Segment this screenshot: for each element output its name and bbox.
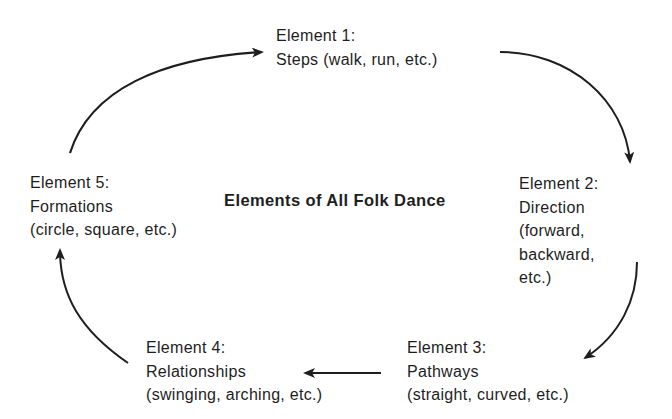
- element-5-node: Element 5: Formations (circle, square, e…: [30, 171, 177, 242]
- element-3-node: Element 3: Pathways (straight, curved, e…: [407, 336, 569, 407]
- folk-dance-cycle-diagram: Elements of All Folk Dance Element 1: St…: [0, 0, 672, 419]
- element-4-name: Relationships: [146, 360, 322, 384]
- element-2-name: Direction: [519, 196, 598, 220]
- element-3-examples: (straight, curved, etc.): [407, 383, 569, 407]
- element-2-example-2: backward,: [519, 243, 598, 267]
- element-4-node: Element 4: Relationships (swinging, arch…: [146, 336, 322, 407]
- arrow-1-to-2: [500, 52, 630, 162]
- element-1-node: Element 1: Steps (walk, run, etc.): [276, 24, 438, 71]
- arrow-4-to-5: [60, 250, 128, 363]
- element-3-heading: Element 3:: [407, 336, 569, 360]
- element-5-examples: (circle, square, etc.): [30, 218, 177, 242]
- element-1-heading: Element 1:: [276, 24, 438, 48]
- element-5-heading: Element 5:: [30, 171, 177, 195]
- element-3-name: Pathways: [407, 360, 569, 384]
- diagram-title: Elements of All Folk Dance: [224, 191, 446, 210]
- element-5-name: Formations: [30, 195, 177, 219]
- element-4-heading: Element 4:: [146, 336, 322, 360]
- element-2-node: Element 2: Direction (forward, backward,…: [519, 172, 598, 290]
- arrow-5-to-1: [70, 52, 262, 153]
- element-2-heading: Element 2:: [519, 172, 598, 196]
- element-4-examples: (swinging, arching, etc.): [146, 383, 322, 407]
- element-1-description: Steps (walk, run, etc.): [276, 48, 438, 72]
- element-2-example-1: (forward,: [519, 219, 598, 243]
- element-2-example-3: etc.): [519, 266, 598, 290]
